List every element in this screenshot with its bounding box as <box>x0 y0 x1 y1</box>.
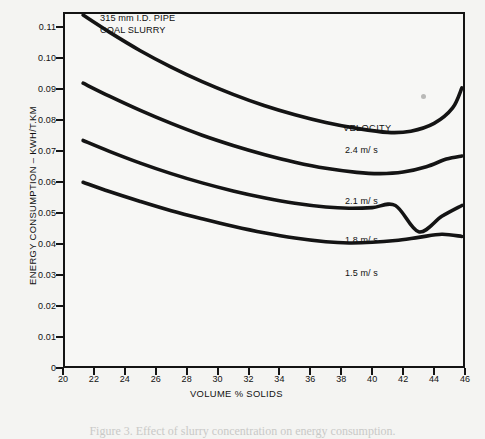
y-tick-label: 0.11 <box>6 22 56 32</box>
x-tick-label: 20 <box>46 374 80 384</box>
y-axis-title: ENERGY CONSUMPTION – KWH/T.KM <box>27 66 38 326</box>
x-tick-label: 36 <box>293 374 327 384</box>
x-tick-label: 38 <box>324 374 358 384</box>
y-tick-label: 0.10 <box>6 53 56 63</box>
y-tick-label: 0.01 <box>6 332 56 342</box>
x-axis-title: VOLUME % SOLIDS <box>190 388 283 399</box>
legend-item-1-8: 1.8 m/ s <box>345 235 378 245</box>
legend-title: VELOCITY <box>343 123 392 133</box>
scan-artifact-dot <box>421 94 426 99</box>
x-tick-label: 30 <box>201 374 235 384</box>
plot-annotation-line1: 315 mm I.D. PIPE <box>100 13 175 23</box>
x-tick-label: 24 <box>108 374 142 384</box>
x-tick-label: 40 <box>355 374 389 384</box>
plot-annotation-line2: COAL SLURRY <box>100 25 165 35</box>
legend-item-1-5: 1.5 m/ s <box>345 268 378 278</box>
plot-annotation: 315 mm I.D. PIPE COAL SLURRY <box>100 13 175 36</box>
x-tick-label: 42 <box>386 374 420 384</box>
x-tick-label: 28 <box>170 374 204 384</box>
x-tick-label: 46 <box>448 374 482 384</box>
x-tick-label: 22 <box>77 374 111 384</box>
x-tick-label: 26 <box>139 374 173 384</box>
x-tick-label: 34 <box>262 374 296 384</box>
x-tick-label: 44 <box>417 374 451 384</box>
y-tick-label: 0 <box>6 363 56 373</box>
legend-item-2-4: 2.4 m/ s <box>345 145 378 155</box>
x-tick-label: 32 <box>232 374 266 384</box>
legend-item-2-1: 2.1 m/ s <box>345 196 378 206</box>
figure-caption: Figure 3. Effect of slurry concentration… <box>0 424 485 439</box>
